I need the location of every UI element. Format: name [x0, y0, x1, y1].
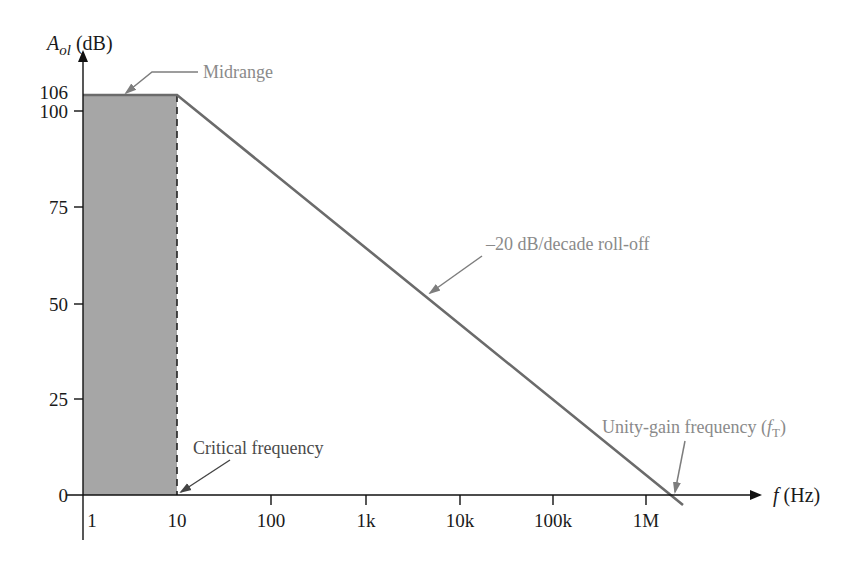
rolloff-leader — [430, 256, 482, 293]
x-tick-10k: 10k — [446, 510, 475, 531]
critical-frequency-label: Critical frequency — [193, 438, 323, 458]
y-tick-0: 0 — [59, 485, 69, 506]
midrange-shaded-region — [83, 95, 177, 495]
rolloff-label: –20 dB/decade roll-off — [485, 234, 650, 254]
x-tick-100: 100 — [257, 510, 286, 531]
x-tick-1: 1 — [87, 510, 97, 531]
x-tick-1k: 1k — [357, 510, 377, 531]
y-tick-75: 75 — [49, 197, 68, 218]
y-tick-100: 100 — [40, 101, 69, 122]
bode-plot: 106 100 75 50 25 0 1 10 100 1k 10k 100k … — [0, 0, 866, 562]
unity-gain-label: Unity-gain frequency (fT) — [602, 417, 786, 440]
y-tick-106: 106 — [40, 82, 69, 103]
x-ticks — [271, 495, 646, 505]
x-tick-10: 10 — [168, 510, 187, 531]
x-tick-100k: 100k — [534, 510, 573, 531]
y-tick-25: 25 — [49, 389, 68, 410]
y-axis-title: Aol (dB) — [45, 32, 113, 58]
midrange-leader — [126, 72, 198, 93]
y-tick-50: 50 — [49, 294, 68, 315]
unity-gain-leader — [675, 441, 685, 492]
x-axis-title: f (Hz) — [773, 484, 820, 507]
y-ticks — [74, 111, 83, 399]
midrange-label: Midrange — [203, 62, 273, 82]
x-tick-1M: 1M — [633, 510, 660, 531]
critical-leader — [181, 460, 230, 492]
